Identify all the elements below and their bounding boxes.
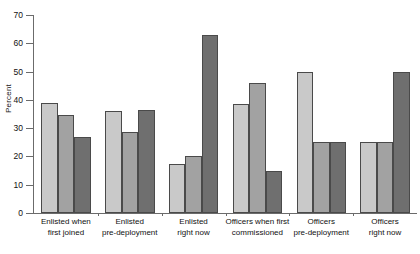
x-axis-tick bbox=[353, 213, 354, 216]
bar bbox=[41, 103, 58, 213]
bar bbox=[266, 171, 283, 213]
bar-group bbox=[360, 15, 410, 213]
y-axis-tick-label: 10 bbox=[0, 180, 23, 190]
y-axis-tick-label: 20 bbox=[0, 151, 23, 161]
y-axis-tick-label: 30 bbox=[0, 123, 23, 133]
bar-chart: Percent 010203040506070 Enlisted when fi… bbox=[0, 0, 420, 254]
bar bbox=[297, 72, 314, 213]
x-axis-tick bbox=[162, 213, 163, 216]
bar bbox=[74, 137, 91, 213]
y-axis-tick-label: 70 bbox=[0, 10, 23, 20]
y-axis-tick bbox=[26, 43, 34, 44]
y-axis-tick bbox=[26, 100, 34, 101]
bar bbox=[233, 104, 250, 213]
bar-group bbox=[169, 15, 219, 213]
y-axis-tick bbox=[26, 128, 34, 129]
x-axis-tick bbox=[226, 213, 227, 216]
x-axis-tick bbox=[289, 213, 290, 216]
y-axis-tick bbox=[26, 213, 34, 214]
bar-group bbox=[41, 15, 91, 213]
y-axis-tick bbox=[26, 15, 34, 16]
bar bbox=[169, 164, 186, 214]
y-axis-tick bbox=[26, 185, 34, 186]
bar bbox=[360, 142, 377, 213]
bar bbox=[185, 156, 202, 213]
bar bbox=[105, 111, 122, 213]
bar-group bbox=[233, 15, 283, 213]
bar bbox=[138, 110, 155, 213]
bar bbox=[202, 35, 219, 213]
bar bbox=[249, 83, 266, 213]
y-axis-tick bbox=[26, 156, 34, 157]
bar bbox=[377, 142, 394, 213]
plot-area bbox=[34, 15, 417, 213]
y-axis-tick-label: 60 bbox=[0, 38, 23, 48]
x-axis-tick bbox=[98, 213, 99, 216]
bar bbox=[122, 132, 139, 213]
bar bbox=[313, 142, 330, 213]
y-axis-tick-label: 0 bbox=[0, 208, 23, 218]
bar bbox=[330, 142, 347, 213]
x-axis-group-label: Officers right now bbox=[345, 217, 420, 238]
y-axis-tick-label: 40 bbox=[0, 95, 23, 105]
y-axis-tick bbox=[26, 72, 34, 73]
bar bbox=[393, 72, 410, 213]
bar-group bbox=[105, 15, 155, 213]
y-axis-tick-label: 50 bbox=[0, 67, 23, 77]
bar-group bbox=[297, 15, 347, 213]
bar bbox=[58, 115, 75, 213]
